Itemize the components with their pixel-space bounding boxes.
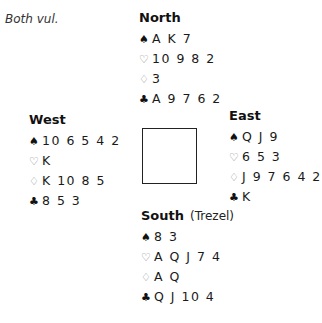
suit-row-spades: ♠A K 7 — [139, 29, 222, 49]
cards: K — [42, 153, 52, 168]
spade-icon: ♠ — [139, 30, 150, 50]
suit-row-spades: ♠8 3 — [141, 227, 234, 247]
hand-label: North — [139, 9, 222, 29]
player-name: (Trezel) — [190, 209, 234, 223]
cards: A K 7 — [152, 31, 192, 46]
suit-row-hearts: ♡K — [29, 151, 121, 171]
heart-icon: ♡ — [139, 50, 150, 70]
club-icon: ♣ — [141, 288, 152, 308]
club-icon: ♣ — [29, 192, 40, 212]
suit-row-hearts: ♡10 9 8 2 — [139, 49, 222, 69]
cards: 10 9 8 2 — [152, 51, 216, 66]
suit-row-hearts: ♡A Q J 7 4 — [141, 247, 234, 267]
seat-name: East — [229, 108, 261, 123]
suit-row-diamonds: ♢K 10 8 5 — [29, 171, 121, 191]
cards: 8 3 — [154, 229, 178, 244]
cards: Q J 10 4 — [154, 289, 215, 304]
cards: A 9 7 6 2 — [152, 91, 222, 106]
heart-icon: ♡ — [29, 152, 40, 172]
spade-icon: ♠ — [141, 228, 152, 248]
diamond-icon: ♢ — [29, 172, 40, 192]
cards: A Q — [154, 269, 181, 284]
heart-icon: ♡ — [141, 248, 152, 268]
cards: 3 — [152, 71, 161, 86]
suit-row-diamonds: ♢J 9 7 6 4 2 — [229, 167, 322, 187]
club-icon: ♣ — [139, 90, 150, 110]
cards: A Q J 7 4 — [154, 249, 221, 264]
suit-row-spades: ♠10 6 5 4 2 — [29, 131, 121, 151]
diamond-icon: ♢ — [139, 70, 150, 90]
suit-row-spades: ♠Q J 9 — [229, 127, 322, 147]
spade-icon: ♠ — [29, 132, 40, 152]
spade-icon: ♠ — [229, 128, 240, 148]
hand-label: South(Trezel) — [141, 207, 234, 227]
vulnerability-label: Both vul. — [5, 12, 59, 26]
hand-south: South(Trezel) ♠8 3 ♡A Q J 7 4 ♢A Q ♣Q J … — [141, 207, 234, 307]
cards: 8 5 3 — [42, 193, 81, 208]
suit-row-diamonds: ♢A Q — [141, 267, 234, 287]
hand-label: East — [229, 107, 322, 127]
hand-east: East ♠Q J 9 ♡6 5 3 ♢J 9 7 6 4 2 ♣K — [229, 107, 322, 207]
diamond-icon: ♢ — [141, 268, 152, 288]
seat-name: North — [139, 10, 181, 25]
seat-name: South — [141, 208, 184, 223]
hand-west: West ♠10 6 5 4 2 ♡K ♢K 10 8 5 ♣8 5 3 — [29, 111, 121, 211]
cards: J 9 7 6 4 2 — [242, 169, 322, 184]
cards: Q J 9 — [242, 129, 279, 144]
suit-row-clubs: ♣Q J 10 4 — [141, 287, 234, 307]
table-diagram-box — [142, 128, 197, 184]
suit-row-hearts: ♡6 5 3 — [229, 147, 322, 167]
suit-row-clubs: ♣A 9 7 6 2 — [139, 89, 222, 109]
seat-name: West — [29, 112, 66, 127]
suit-row-diamonds: ♢3 — [139, 69, 222, 89]
diamond-icon: ♢ — [229, 168, 240, 188]
suit-row-clubs: ♣8 5 3 — [29, 191, 121, 211]
hand-label: West — [29, 111, 121, 131]
cards: 6 5 3 — [242, 149, 281, 164]
hand-north: North ♠A K 7 ♡10 9 8 2 ♢3 ♣A 9 7 6 2 — [139, 9, 222, 109]
cards: K — [242, 189, 252, 204]
heart-icon: ♡ — [229, 148, 240, 168]
suit-row-clubs: ♣K — [229, 187, 322, 207]
club-icon: ♣ — [229, 188, 240, 208]
cards: 10 6 5 4 2 — [42, 133, 121, 148]
cards: K 10 8 5 — [42, 173, 106, 188]
